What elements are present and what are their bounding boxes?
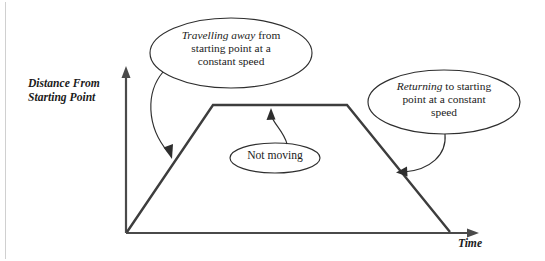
callout-not-moving-label: Not moving (232, 149, 318, 162)
callout-returning-emphasis: Returning (397, 80, 443, 92)
callout-returning-text: Returning to startingpoint at a constant… (374, 80, 514, 120)
y-axis-label: Distance FromStarting Point (28, 77, 100, 105)
x-axis (126, 229, 479, 238)
distance-time-graph-figure: Distance FromStarting Point Time Travell… (0, 0, 545, 261)
callout-travelling-away-emphasis: Travelling away (182, 29, 256, 41)
y-axis (122, 66, 131, 233)
leader-returning (396, 134, 445, 177)
y-axis-label-line2: Starting Point (28, 91, 95, 104)
callout-returning-line2: point at a constant (402, 93, 485, 105)
y-axis-label-line1: Distance From (28, 77, 100, 90)
callout-travelling-away-text: Travelling away fromstarting point at ac… (156, 29, 306, 69)
leader-travelling-away (151, 72, 173, 159)
callout-travelling-away-line3: constant speed (198, 55, 265, 67)
callout-travelling-away-line1-rest: from (255, 29, 280, 41)
leader-not-moving (267, 108, 288, 144)
callout-returning-line3: speed (431, 106, 457, 118)
callout-travelling-away-line2: starting point at a (191, 42, 270, 54)
callout-returning-line1-rest: to starting (442, 80, 491, 92)
x-axis-label: Time (458, 237, 482, 250)
